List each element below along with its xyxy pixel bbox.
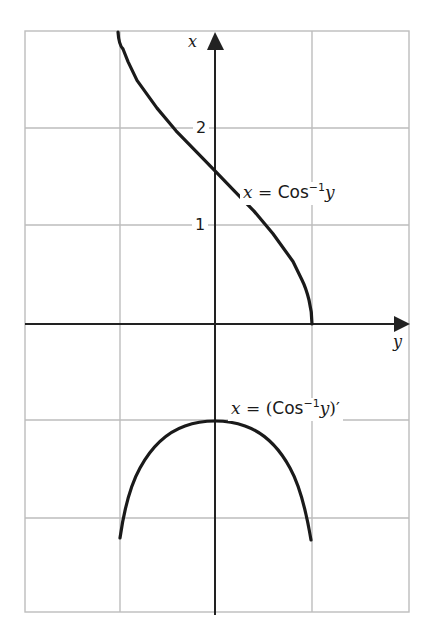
label-sup: −1	[303, 397, 319, 410]
label-arg: y	[320, 398, 330, 418]
label-eq: =	[253, 182, 278, 202]
tick-label-2: 2	[193, 119, 209, 137]
axes	[25, 32, 410, 615]
grid-frame	[25, 31, 409, 612]
vertical-axis-arrow-icon	[207, 32, 224, 50]
vertical-axis-label: x	[188, 33, 197, 51]
label-var: x	[231, 398, 241, 418]
horizontal-axis-arrow-icon	[394, 316, 410, 332]
label-fn: Cos	[272, 398, 303, 418]
label-sup: −1	[309, 181, 325, 194]
arccos-derivative-label: x = (Cos−1y)′	[228, 398, 343, 421]
plot-figure: x y 2 1 x = Cos−1y x = (Cos−1y)′	[0, 0, 435, 634]
grid	[25, 31, 409, 612]
label-fn: Cos	[278, 182, 309, 202]
label-eq: =	[241, 398, 266, 418]
arccos-label: x = Cos−1y	[240, 182, 338, 205]
horizontal-axis-label: y	[393, 333, 402, 351]
label-var: x	[243, 182, 253, 202]
tick-label-1: 1	[192, 216, 208, 234]
label-suffix: )′	[329, 398, 340, 418]
plot-canvas	[0, 0, 435, 634]
label-arg: y	[325, 182, 335, 202]
